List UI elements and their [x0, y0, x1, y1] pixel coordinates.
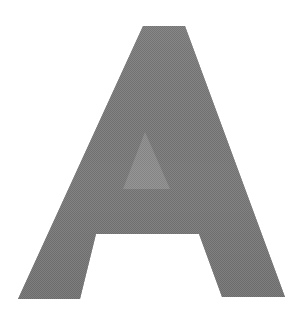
letter-a-glyph — [0, 0, 291, 326]
image-canvas — [0, 0, 291, 326]
